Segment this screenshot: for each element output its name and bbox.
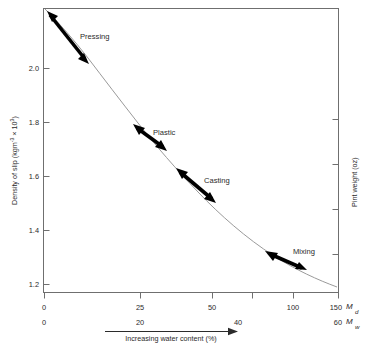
- annotation-casting: Casting: [176, 168, 230, 203]
- md-tick-label: 0: [42, 303, 46, 312]
- y-right-axis-ticks: [333, 120, 339, 255]
- mw-tick-label: 40: [234, 318, 242, 327]
- md-tick-label: 50: [208, 303, 216, 312]
- annotation-pressing: Pressing: [47, 11, 110, 64]
- md-axis-subscript: d: [355, 308, 359, 315]
- y-tick-label: 1.6: [29, 172, 39, 181]
- region-label-plastic: Plastic: [153, 128, 176, 137]
- density-curve: [45, 9, 337, 287]
- x-axis-md-ticks: [45, 293, 339, 299]
- mw-tick-label: 0: [42, 318, 46, 327]
- arrow-head-icon: [295, 262, 307, 270]
- md-tick-label: 100: [287, 303, 299, 312]
- md-tick-label: 25: [136, 303, 144, 312]
- y-axis-title-text: Density of slip (kgm: [10, 142, 19, 205]
- region-label-mixing: Mixing: [293, 247, 315, 256]
- region-label-pressing: Pressing: [80, 32, 110, 41]
- x-axis-md-labels: 0 25 50 100 150: [42, 303, 342, 312]
- y-right-axis-title: Pint weight (oz): [350, 157, 359, 207]
- y-axis-title: Density of slip (kgm-3 × 103): [9, 116, 19, 205]
- md-tick-label: 150: [330, 303, 342, 312]
- chart-figure: 2.0 1.8 1.6 1.4 1.2 Density of slip (kgm…: [0, 0, 369, 344]
- y-tick-label: 1.4: [29, 226, 39, 235]
- x-axis-mw-labels: 0 20 40 60: [42, 318, 342, 327]
- y-axis-ticks: [44, 69, 50, 285]
- y-tick-label: 2.0: [29, 64, 39, 73]
- y-tick-label: 1.8: [29, 118, 39, 127]
- water-content-label: Increasing water content (%): [125, 334, 216, 343]
- y-tick-label: 1.2: [29, 280, 39, 289]
- slip-density-chart: 2.0 1.8 1.6 1.4 1.2 Density of slip (kgm…: [0, 0, 369, 344]
- region-label-casting: Casting: [204, 176, 230, 185]
- mw-axis-symbol: M: [346, 317, 353, 326]
- md-axis-symbol: M: [346, 302, 353, 311]
- annotation-mixing: Mixing: [265, 247, 315, 270]
- mw-tick-label: 20: [136, 318, 144, 327]
- arrow-head-icon: [265, 251, 278, 261]
- annotation-plastic: Plastic: [133, 124, 176, 151]
- y-axis-tick-labels: 2.0 1.8 1.6 1.4 1.2: [29, 64, 39, 289]
- mw-axis-subscript: w: [355, 323, 360, 330]
- mw-tick-label: 60: [334, 318, 342, 327]
